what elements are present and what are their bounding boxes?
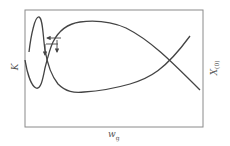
diagram-canvas: [0, 0, 230, 146]
plot-frame: [25, 10, 203, 127]
y-axis-label-left: K: [10, 64, 20, 71]
x0-curve: [29, 17, 190, 92]
x-axis-label: wg: [108, 129, 120, 141]
y-axis-label-right: X(0): [209, 60, 221, 75]
